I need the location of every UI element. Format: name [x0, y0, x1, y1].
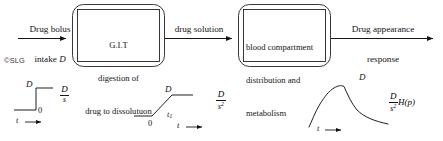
response-transform-numerator: D: [389, 92, 398, 102]
ramp-plot-amplitude-label: D: [165, 84, 172, 94]
ramp-plot-transform: D s2: [216, 90, 226, 110]
git-block-label: G.I.T digestion of drug to dissolutuon: [78, 18, 159, 139]
intake-label-line1: Drug bolus: [19, 24, 81, 34]
copyright-watermark: ©SLG: [4, 57, 25, 65]
step-input-plot-curve: [14, 88, 53, 110]
response-label-line1: Drug appearance: [331, 24, 435, 34]
step-transform-denominator: s: [60, 96, 69, 104]
response-den-exponent: 2: [393, 103, 396, 109]
step-plot-amplitude-label: D: [26, 79, 33, 89]
git-block-line-3: drug to dissolutuon: [78, 106, 159, 117]
step-plot-origin-label: 0: [38, 106, 42, 115]
response-plot-transform: D s2 H(p): [389, 92, 415, 112]
ramp-plot-time-label: t: [177, 121, 179, 130]
ramp-transform-denominator: s2: [216, 101, 226, 111]
blood-block-line-3: metabolism: [246, 108, 326, 119]
intake-label-line2: intake D: [19, 54, 81, 64]
response-label: Drug appearance response: [331, 3, 435, 85]
response-plot-amplitude-label: D: [359, 72, 366, 82]
step-transform-numerator: D: [60, 85, 69, 95]
git-block-line-1: G.I.T: [78, 40, 159, 51]
drug-solution-label: drug solution: [166, 24, 232, 34]
intake-label-line2-text: intake: [34, 54, 59, 64]
response-transform-fraction: D s2: [389, 92, 398, 112]
git-block-line-2: digestion of: [78, 73, 159, 84]
blood-block-line-2: distribution and: [246, 75, 326, 86]
ramp-breakpoint-subscript: 1: [169, 112, 172, 119]
blood-compartment-block-label: blood compartment distribution and metab…: [246, 20, 326, 141]
blood-block-line-1: blood compartment: [246, 42, 326, 53]
response-plot-time-label: t: [317, 124, 319, 133]
response-label-line2: response: [331, 54, 435, 64]
step-plot-time-label: t: [16, 116, 18, 125]
diagram-canvas: Drug bolus intake D ©SLG G.I.T digestion…: [0, 0, 443, 141]
response-transform-tail: H(p): [398, 97, 416, 107]
ramp-transform-numerator: D: [216, 90, 226, 100]
ramp-plot-origin-label: 0: [148, 119, 152, 128]
step-plot-transform: D s: [60, 85, 69, 104]
response-transform-denominator: s2: [389, 103, 398, 113]
ramp-plot-breakpoint-label: t1: [167, 110, 172, 120]
intake-label-variable: D: [59, 54, 66, 64]
ramp-den-exponent: 2: [221, 101, 224, 107]
intake-label: Drug bolus intake D: [19, 3, 81, 85]
